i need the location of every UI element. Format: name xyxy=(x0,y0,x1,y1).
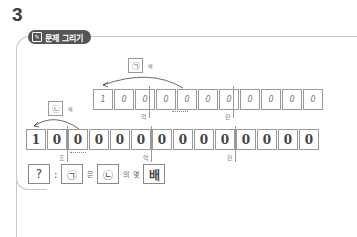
bottom-divider-man xyxy=(235,126,236,162)
bottom-digit-box: 1 xyxy=(26,129,46,150)
top-digit-box: 0 xyxy=(156,89,176,110)
answer-a-box: ㉠ xyxy=(61,164,83,184)
bottom-digit-box: 0 xyxy=(173,129,193,150)
top-digit-box: 0 xyxy=(198,89,218,110)
answer-eun: 은 xyxy=(87,169,93,179)
bottom-digit-box: 0 xyxy=(110,129,130,150)
colon: : xyxy=(54,169,57,180)
answer-myeot: 몇 xyxy=(133,169,139,179)
top-digit-box: 1 xyxy=(93,89,113,110)
top-digit-box: 0 xyxy=(282,89,302,110)
top-digit-box: 0 xyxy=(303,89,323,110)
tag-b-suffix: 배 xyxy=(68,105,73,112)
bottom-divider-jo xyxy=(67,126,68,162)
answer-ui: 의 xyxy=(123,169,129,179)
top-underline-mark xyxy=(172,109,188,112)
bottom-unit-eok: 억 xyxy=(143,153,149,162)
top-digit-box: 0 xyxy=(114,89,134,110)
bottom-digit-box: 0 xyxy=(152,129,172,150)
bottom-digit-box: 0 xyxy=(299,129,319,150)
bottom-digit-box: 0 xyxy=(131,129,151,150)
top-unit-eok: 억 xyxy=(141,112,147,121)
bottom-digit-box: 0 xyxy=(257,129,277,150)
bottom-unit-jo: 조 xyxy=(59,153,65,162)
top-digit-box: 0 xyxy=(135,89,155,110)
top-digit-box: 0 xyxy=(261,89,281,110)
tag-b-box: ㉡ xyxy=(48,101,63,116)
top-digit-box: 0 xyxy=(219,89,239,110)
top-digit-box: 0 xyxy=(240,89,260,110)
answer-row: ? : ㉠ 은 ㉡ 의 몇 배 xyxy=(28,164,165,184)
answer-b-box: ㉡ xyxy=(97,164,119,184)
bottom-digit-box: 0 xyxy=(47,129,67,150)
bottom-divider-eok xyxy=(151,126,152,162)
top-divider-man xyxy=(233,86,234,118)
bottom-digit-box: 0 xyxy=(236,129,256,150)
bottom-unit-man: 만 xyxy=(227,153,233,162)
top-divider-eok xyxy=(149,86,150,118)
top-digit-box: 0 xyxy=(177,89,197,110)
bottom-digit-box: 0 xyxy=(194,129,214,150)
bottom-digit-box: 0 xyxy=(89,129,109,150)
bottom-digit-box: 0 xyxy=(215,129,235,150)
bottom-underline-mark xyxy=(70,150,86,153)
bottom-digit-box: 0 xyxy=(68,129,88,150)
question-mark-box: ? xyxy=(28,164,50,184)
bottom-digit-box: 0 xyxy=(278,129,298,150)
top-unit-man: 만 xyxy=(225,112,231,121)
answer-bae-box: 배 xyxy=(143,164,165,184)
